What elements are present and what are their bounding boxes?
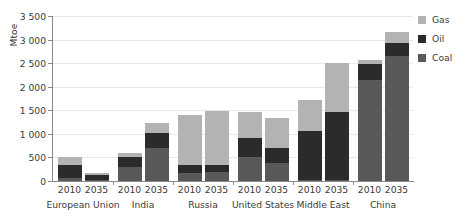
bar-segment-gas [178,115,202,164]
y-tick-label: 3 500 [0,11,46,22]
bar-segment-oil [85,175,109,179]
bar-segment-gas [325,63,349,112]
y-tick-label: 2 000 [0,81,46,92]
x-group-separator [293,181,294,185]
bar-segment-coal [265,163,289,181]
bar-segment-coal [358,80,382,181]
legend-label: Oil [432,33,444,44]
bar-segment-oil [58,165,82,178]
bar-china-2035 [385,32,409,181]
legend-item-coal[interactable]: Coal [418,48,469,67]
bar-segment-coal [118,167,142,181]
bar-segment-oil [265,148,289,164]
x-group-label: China [323,199,443,210]
plot-area [53,16,413,181]
bar-segment-gas [385,32,409,44]
bar-russia-2035 [205,111,229,181]
y-tick-label: 2 500 [0,58,46,69]
stacked-bar-chart: Mtoe 05001 0001 5002 0002 5003 0003 500 … [0,0,469,218]
x-axis-labels: 2010203520102035201020352010203520102035… [0,181,469,218]
bar-united-states-2010 [238,112,262,181]
bar-segment-gas [298,100,322,131]
bar-segment-oil [298,131,322,181]
bar-european-union-2035 [85,173,109,181]
bar-segment-coal [205,172,229,181]
legend-label: Gas [432,14,450,25]
bar-segment-coal [145,148,169,181]
bar-segment-oil [238,138,262,158]
legend-label: Coal [432,52,452,63]
x-group-separator [233,181,234,185]
legend-item-gas[interactable]: Gas [418,10,469,29]
bar-segment-oil [178,165,202,173]
x-group-separator [113,181,114,185]
chart-legend: GasOilCoal [418,10,469,67]
bar-segment-coal [385,56,409,181]
bar-india-2010 [118,153,142,181]
bar-segment-gas [58,157,82,165]
x-group-separator [353,181,354,185]
gridline [53,40,413,41]
bar-united-states-2035 [265,118,289,181]
bar-segment-coal [178,173,202,181]
legend-swatch-coal-icon [418,54,426,62]
bar-segment-gas [118,153,142,157]
bar-segment-gas [145,123,169,134]
bar-segment-oil [205,165,229,173]
bar-segment-gas [85,173,109,176]
legend-item-oil[interactable]: Oil [418,29,469,48]
bar-segment-gas [205,111,229,164]
y-tick-label: 500 [0,152,46,163]
bar-segment-coal [238,157,262,181]
bar-segment-oil [325,112,349,180]
bar-segment-oil [385,43,409,56]
bar-china-2010 [358,60,382,181]
bar-middle-east-2010 [298,100,322,181]
bar-segment-gas [265,118,289,148]
bar-russia-2010 [178,115,202,181]
x-group-separator [173,181,174,185]
bar-india-2035 [145,123,169,181]
bar-segment-oil [145,133,169,148]
y-tick-label: 1 000 [0,128,46,139]
bar-segment-gas [238,112,262,138]
bar-segment-oil [118,157,142,167]
bar-segment-gas [358,60,382,64]
bar-european-union-2010 [58,157,82,181]
legend-swatch-gas-icon [418,16,426,24]
y-tick-label: 1 500 [0,105,46,116]
y-tick-label: 3 000 [0,34,46,45]
bar-middle-east-2035 [325,63,349,181]
legend-swatch-oil-icon [418,35,426,43]
x-year-label: 2035 [377,184,417,195]
gridline [53,16,413,17]
bar-segment-oil [358,64,382,80]
